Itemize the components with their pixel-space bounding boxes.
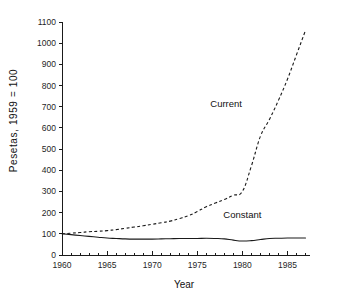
y-tick-label: 600 xyxy=(42,123,56,133)
x-tick-label: 1960 xyxy=(53,260,72,270)
x-axis-tick-labels: 196019651970197519801985 xyxy=(53,260,298,270)
series-label-constant: Constant xyxy=(223,209,261,220)
x-axis-tick-marks xyxy=(62,251,305,255)
y-tick-label: 1100 xyxy=(38,17,57,27)
line-chart: 010020030040050060070080090010001100 196… xyxy=(0,0,352,303)
x-axis-title: Year xyxy=(174,279,195,290)
series-label-current: Current xyxy=(210,98,242,109)
series-line-constant xyxy=(62,234,305,241)
x-tick-label: 1985 xyxy=(278,260,297,270)
y-tick-label: 0 xyxy=(51,250,56,260)
y-tick-label: 100 xyxy=(42,229,56,239)
y-axis-tick-labels: 010020030040050060070080090010001100 xyxy=(37,17,56,260)
chart-container: 010020030040050060070080090010001100 196… xyxy=(0,0,352,303)
x-tick-label: 1965 xyxy=(98,260,117,270)
y-tick-label: 400 xyxy=(42,165,56,175)
series-line-current xyxy=(62,30,305,233)
y-tick-label: 200 xyxy=(42,208,56,218)
x-tick-label: 1970 xyxy=(143,260,162,270)
y-tick-label: 300 xyxy=(42,186,56,196)
y-tick-label: 500 xyxy=(42,144,56,154)
x-tick-label: 1975 xyxy=(188,260,207,270)
y-tick-label: 700 xyxy=(42,102,56,112)
y-axis-title: Pesetas, 1959 = 100 xyxy=(8,69,19,172)
y-tick-label: 1000 xyxy=(37,38,56,48)
y-tick-label: 800 xyxy=(42,81,56,91)
y-tick-label: 900 xyxy=(42,59,56,69)
x-tick-label: 1980 xyxy=(233,260,252,270)
